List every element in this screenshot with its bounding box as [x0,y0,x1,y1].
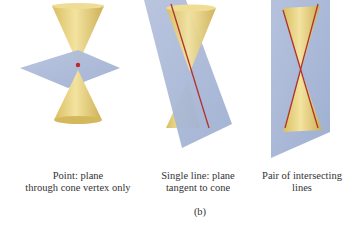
caption-line: Point: plane [14,170,142,182]
panel-point [20,3,120,124]
caption-line: Pair of intersecting [252,170,352,182]
caption-single-line: Single line: plane tangent to cone [148,170,248,194]
caption-line: lines [252,182,352,194]
degenerate-conics-figure [0,0,354,160]
caption-line: tangent to cone [148,182,248,194]
caption-line: through cone vertex only [14,182,142,194]
panel-pair-of-lines [271,0,330,158]
plane [20,50,120,88]
caption-point: Point: plane through cone vertex only [14,170,142,194]
panel-single-line [144,0,232,148]
caption-line: Single line: plane [148,170,248,182]
vertex-point [76,63,80,67]
figure-sublabel: (b) [150,206,250,217]
caption-pair-of-lines: Pair of intersecting lines [252,170,352,194]
